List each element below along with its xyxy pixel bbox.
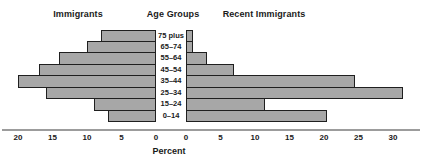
right-series-title: Recent Immigrants — [223, 9, 306, 19]
age-group-label-35-44: 35–44 — [161, 75, 182, 86]
left-axis-tick-15: 15 — [48, 133, 57, 142]
right-axis-tick-30: 30 — [389, 133, 398, 142]
age-group-label-75-plus: 75 plus — [158, 30, 184, 41]
age-groups-title: Age Groups — [147, 9, 200, 19]
left-axis-tick-20: 20 — [14, 133, 23, 142]
age-group-label-0-14: 0–14 — [163, 110, 180, 121]
left-axis-tick-0: 0 — [154, 133, 158, 142]
right-axis-tick-0: 0 — [184, 133, 188, 142]
age-group-label-25-34: 25–34 — [161, 87, 182, 98]
age-group-label-55-64: 55–64 — [161, 52, 182, 63]
left-series-title: Immigrants — [53, 9, 103, 19]
left-axis-tick-5: 5 — [119, 133, 123, 142]
right-axis-tick-20: 20 — [320, 133, 329, 142]
bar-immigrants-0-14 — [108, 110, 156, 122]
x-axis-line — [2, 129, 420, 131]
right-axis-tick-25: 25 — [354, 133, 363, 142]
age-group-label-65-74: 65–74 — [161, 41, 182, 52]
population-pyramid-chart: Immigrants Age Groups Recent Immigrants … — [0, 0, 425, 163]
x-axis-label: Percent — [152, 146, 185, 156]
age-group-label-45-54: 45–54 — [161, 64, 182, 75]
right-axis-tick-15: 15 — [285, 133, 294, 142]
right-axis-tick-5: 5 — [218, 133, 222, 142]
left-axis-tick-10: 10 — [83, 133, 92, 142]
bar-recent-immigrants-0-14 — [186, 110, 327, 122]
age-group-label-15-24: 15–24 — [161, 98, 182, 109]
right-axis-tick-10: 10 — [251, 133, 260, 142]
